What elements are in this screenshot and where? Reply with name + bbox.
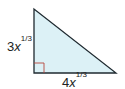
right-triangle: [34, 9, 116, 73]
left-side-exponent: 1/3: [21, 34, 32, 43]
bottom-side-exponent: 1/3: [76, 70, 87, 79]
bottom-side-variable: x: [69, 75, 76, 89]
left-side-label: 3x1/3: [7, 37, 32, 55]
left-side-variable: x: [14, 39, 21, 54]
bottom-side-label: 4x1/3: [62, 73, 87, 89]
